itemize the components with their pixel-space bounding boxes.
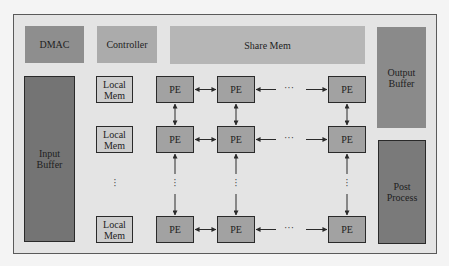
- pe-rn-c2: PE: [217, 216, 255, 243]
- pe-label: PE: [169, 134, 181, 145]
- post-process-label: Post Process: [380, 181, 424, 203]
- pe-row2-ellipsis: ···: [284, 132, 294, 143]
- controller-block: Controller: [97, 26, 157, 63]
- pe-r2-cn: PE: [328, 126, 366, 153]
- pe-label: PE: [341, 134, 353, 145]
- pe-label: PE: [230, 134, 242, 145]
- pe-r2-c1: PE: [156, 126, 194, 153]
- pe-label: PE: [169, 224, 181, 235]
- input-buffer-block: Input Buffer: [24, 76, 75, 242]
- pe-col1-ellipsis: ···: [170, 178, 180, 187]
- output-buffer-block: Output Buffer: [377, 27, 426, 128]
- local-mem-label: Local Mem: [100, 129, 130, 151]
- pe-label: PE: [169, 84, 181, 95]
- dmac-block: DMAC: [25, 26, 84, 63]
- local-mem-row-2: Local Mem: [96, 126, 133, 153]
- pe-r1-c1: PE: [156, 76, 194, 103]
- pe-r1-c2: PE: [217, 76, 255, 103]
- pe-label: PE: [230, 84, 242, 95]
- pe-row1-ellipsis: ···: [284, 82, 294, 93]
- post-process-block: Post Process: [378, 140, 426, 244]
- pe-label: PE: [341, 84, 353, 95]
- pe-coln-ellipsis: ···: [342, 178, 352, 187]
- dmac-label: DMAC: [39, 39, 69, 50]
- share-mem-block: Share Mem: [170, 26, 365, 64]
- local-mem-label: Local Mem: [100, 219, 130, 241]
- share-mem-label: Share Mem: [244, 40, 290, 51]
- pe-r1-cn: PE: [328, 76, 366, 103]
- pe-rown-ellipsis: ···: [284, 222, 294, 233]
- pe-col2-ellipsis: ···: [231, 178, 241, 187]
- controller-label: Controller: [106, 39, 147, 50]
- output-buffer-label: Output Buffer: [382, 67, 422, 89]
- pe-rn-cn: PE: [328, 216, 366, 243]
- pe-rn-c1: PE: [156, 216, 194, 243]
- local-mem-vertical-ellipsis: ···: [110, 178, 120, 187]
- local-mem-row-1: Local Mem: [96, 76, 133, 103]
- pe-label: PE: [230, 224, 242, 235]
- pe-label: PE: [341, 224, 353, 235]
- local-mem-label: Local Mem: [100, 79, 130, 101]
- local-mem-row-n: Local Mem: [96, 216, 133, 243]
- input-buffer-label: Input Buffer: [30, 148, 70, 170]
- pe-r2-c2: PE: [217, 126, 255, 153]
